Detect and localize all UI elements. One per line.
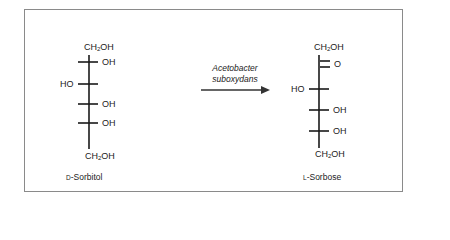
sorbose-c3-ho: HO [291,84,305,94]
sorbitol-c2-oh: OH [102,57,116,67]
sorbose-backbone [309,55,330,148]
sorbitol-bottom-ch2oh: CH2OH [85,151,115,163]
sorbose-c4-oh: OH [333,105,347,115]
sorbitol-c3-ho: HO [60,79,74,89]
sorbose-top-ch2oh: CH2OH [314,42,344,54]
sorbose-bottom-ch2oh: CH2OH [315,149,345,161]
sorbose-name: L-Sorbose [303,172,341,182]
sorbose-c2-o: O [334,59,341,69]
sorbitol-top-ch2oh: CH2OH [84,42,114,54]
sorbitol-c4-oh: OH [102,99,116,109]
sorbitol-backbone [78,55,98,149]
reaction-arrow [201,86,270,94]
sorbose-c5-oh: OH [333,126,347,136]
sorbitol-c5-oh: OH [102,118,116,128]
catalyst-genus: Acetobacter [198,63,272,74]
sorbitol-name: D-Sorbitol [66,172,102,182]
catalyst-species: suboxydans [198,74,272,85]
catalyst-label: Acetobacter suboxydans [198,63,272,85]
